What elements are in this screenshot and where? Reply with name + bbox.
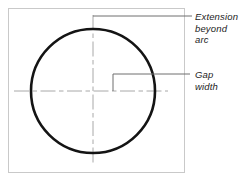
label-extension-beyond-arc: Extension beyond arc	[195, 11, 244, 46]
figure-canvas: Extension beyond arc Gap width	[0, 0, 244, 179]
label-gap-width: Gap width	[195, 69, 244, 92]
